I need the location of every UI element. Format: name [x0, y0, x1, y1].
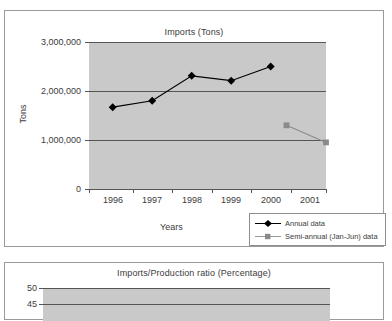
- y-tick-label-0: 0: [27, 184, 81, 194]
- x-axis-label: Years: [160, 222, 183, 232]
- x-tick-mark-end: [326, 189, 327, 193]
- x-tick-label-1997: 1997: [142, 195, 162, 205]
- plot-area: [89, 42, 326, 189]
- y-axis-label: Tons: [18, 104, 28, 123]
- legend-item-annual[interactable]: Annual data: [254, 217, 381, 230]
- series-semi-annual: [284, 122, 329, 145]
- series-annual: [109, 63, 275, 112]
- plot-area: [43, 288, 330, 321]
- chart-title: Imports/Production ratio (Percentage): [5, 268, 383, 278]
- gridline-50: [43, 288, 330, 289]
- y-tick-label-1: 1,000,000: [27, 135, 81, 145]
- gridline-1000000: [89, 140, 326, 141]
- legend-label-annual: Annual data: [285, 219, 325, 228]
- y-tick-label-50: 50: [7, 283, 37, 293]
- x-tick-label-1999: 1999: [221, 195, 241, 205]
- x-tick-mark-2: [172, 189, 173, 193]
- y-tick-label-2: 2,000,000: [27, 86, 81, 96]
- legend-swatch-semi-annual: [254, 231, 282, 242]
- x-tick-mark-4: [251, 189, 252, 193]
- y-tick-label-45: 45: [7, 299, 37, 309]
- series-overlay: [89, 42, 326, 189]
- x-tick-label-1998: 1998: [182, 195, 202, 205]
- imports-tons-chart-panel: Imports (Tons) Tons 0 1,000,000 2,000,00…: [4, 10, 384, 247]
- x-tick-mark-3: [212, 189, 213, 193]
- legend-swatch-annual: [254, 218, 282, 229]
- x-tick-mark-5: [291, 189, 292, 193]
- x-tick-mark-start: [89, 189, 90, 193]
- x-tick-mark-1: [133, 189, 134, 193]
- gridline-2000000: [89, 91, 326, 92]
- gridline-45: [43, 304, 330, 305]
- y-tick-label-3: 3,000,000: [27, 37, 81, 47]
- imports-production-ratio-chart-panel: Imports/Production ratio (Percentage) 50…: [4, 262, 384, 320]
- chart-title: Imports (Tons): [5, 27, 383, 37]
- chart-legend: Annual data Semi-annual (Jan-Jun) data: [249, 213, 386, 246]
- legend-label-semi-annual: Semi-annual (Jan-Jun) data: [285, 232, 378, 241]
- x-tick-label-2000: 2000: [261, 195, 281, 205]
- legend-item-semi-annual[interactable]: Semi-annual (Jan-Jun) data: [254, 230, 381, 243]
- x-tick-label-1996: 1996: [103, 195, 123, 205]
- gridline-3000000: [89, 42, 326, 43]
- x-tick-label-2001: 2001: [300, 195, 320, 205]
